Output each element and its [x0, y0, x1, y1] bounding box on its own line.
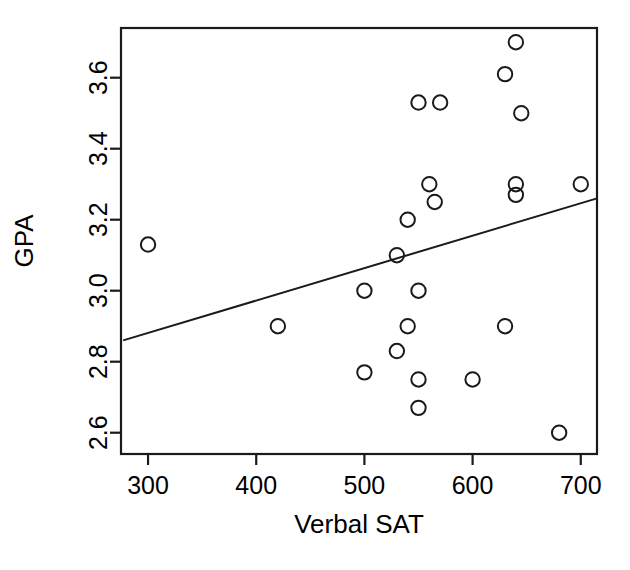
data-point: [411, 284, 425, 298]
data-point: [498, 67, 512, 81]
x-axis-ticks: [148, 454, 581, 465]
data-point: [552, 426, 566, 440]
y-tick-label: 3.2: [85, 202, 113, 237]
x-tick-label: 300: [127, 471, 169, 499]
data-point: [574, 177, 588, 191]
y-axis-tick-labels: 2.62.83.03.23.43.6: [85, 60, 113, 450]
data-point: [141, 237, 155, 251]
data-point: [357, 284, 371, 298]
data-point: [428, 195, 442, 209]
x-tick-label: 600: [452, 471, 494, 499]
data-point: [433, 95, 447, 109]
data-point: [390, 344, 404, 358]
data-point: [498, 319, 512, 333]
scatterplot-figure: 300400500600700 2.62.83.03.23.43.6 Verba…: [0, 0, 630, 570]
axes-group: [121, 28, 597, 454]
data-point: [411, 401, 425, 415]
data-point: [400, 213, 414, 227]
x-tick-label: 700: [560, 471, 602, 499]
plot-frame: [121, 28, 597, 454]
data-point: [514, 106, 528, 120]
x-axis-tick-labels: 300400500600700: [127, 471, 601, 499]
y-tick-label: 2.6: [85, 415, 113, 450]
data-point: [390, 248, 404, 262]
data-point: [509, 188, 523, 202]
plot-canvas: 300400500600700 2.62.83.03.23.43.6 Verba…: [0, 0, 630, 570]
data-point: [400, 319, 414, 333]
y-tick-label: 3.6: [85, 60, 113, 95]
data-point: [271, 319, 285, 333]
data-point: [357, 365, 371, 379]
data-point: [411, 95, 425, 109]
data-point: [411, 372, 425, 386]
data-points-group: [141, 35, 588, 440]
data-point: [509, 35, 523, 49]
x-tick-label: 400: [235, 471, 277, 499]
x-tick-label: 500: [344, 471, 386, 499]
data-point: [422, 177, 436, 191]
y-tick-label: 3.0: [85, 273, 113, 308]
y-tick-label: 2.8: [85, 344, 113, 379]
y-tick-label: 3.4: [85, 131, 113, 166]
regression-line: [123, 198, 597, 340]
data-point: [465, 372, 479, 386]
y-axis-title: GPA: [9, 214, 39, 268]
x-axis-title: Verbal SAT: [294, 509, 424, 539]
regression-line-group: [123, 198, 597, 340]
